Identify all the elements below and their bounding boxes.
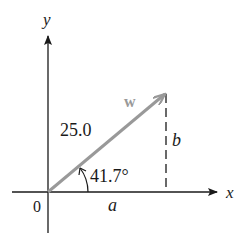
origin-label: 0	[33, 198, 41, 215]
vector-name-label: w	[124, 93, 136, 110]
x-axis-label: x	[225, 183, 234, 202]
angle-label: 41.7°	[90, 166, 129, 186]
y-axis-label: y	[41, 10, 51, 29]
vector-diagram: y x 0 a b w 25.0 41.7°	[0, 0, 251, 240]
component-b-label: b	[172, 130, 181, 150]
component-a-label: a	[108, 195, 117, 215]
angle-arc	[80, 168, 88, 192]
magnitude-label: 25.0	[60, 120, 92, 140]
